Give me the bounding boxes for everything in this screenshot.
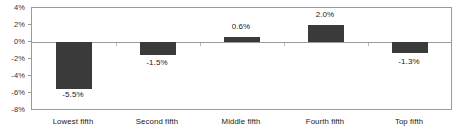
y-tick-label: -6% xyxy=(11,88,25,97)
y-tick-label: -2% xyxy=(11,54,25,63)
y-axis: 4% 2% 0% -2% -4% -6% -8% xyxy=(0,0,28,135)
bar-chart: 4% 2% 0% -2% -4% -6% -8% -5.5% -1.5% xyxy=(0,0,464,135)
bar-top-fifth xyxy=(392,42,428,53)
x-category-label-fourth-fifth: Fourth fifth xyxy=(306,117,344,126)
axis-tick xyxy=(116,43,117,46)
bar-second-fifth xyxy=(140,42,176,55)
x-category-label-second-fifth: Second fifth xyxy=(136,117,178,126)
axis-tick xyxy=(284,43,285,46)
bar-fourth-fifth xyxy=(308,25,344,42)
x-category-label-top-fifth: Top fifth xyxy=(395,117,423,126)
y-tick-label: 4% xyxy=(14,3,25,12)
data-label-middle-fifth: 0.6% xyxy=(232,22,251,31)
y-tick-label: -8% xyxy=(11,105,25,114)
data-label-top-fifth: -1.3% xyxy=(398,57,419,66)
y-tick-label: -4% xyxy=(11,71,25,80)
bar-lowest-fifth xyxy=(56,42,92,89)
y-tick-label: 0% xyxy=(14,37,25,46)
data-label-lowest-fifth: -5.5% xyxy=(62,90,83,99)
data-label-fourth-fifth: 2.0% xyxy=(316,10,335,19)
zero-baseline xyxy=(32,42,451,43)
data-label-second-fifth: -1.5% xyxy=(146,58,167,67)
axis-tick xyxy=(368,43,369,46)
x-category-label-lowest-fifth: Lowest fifth xyxy=(53,117,94,126)
x-category-label-middle-fifth: Middle fifth xyxy=(222,117,261,126)
axis-tick xyxy=(200,43,201,46)
y-tick-label: 2% xyxy=(14,20,25,29)
bar-middle-fifth xyxy=(224,37,260,42)
